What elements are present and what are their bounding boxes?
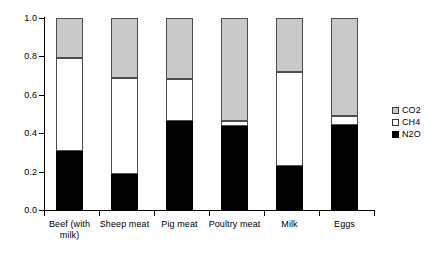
plot-area xyxy=(44,16,374,212)
category-label-line: Eggs xyxy=(308,219,382,230)
bar-segment-co2 xyxy=(276,18,303,72)
legend-item-label: N2O xyxy=(402,130,421,139)
bar-segment-ch4 xyxy=(56,58,83,151)
bar-segment-n2o xyxy=(166,121,193,210)
legend-item-ch4[interactable]: CH4 xyxy=(392,116,421,128)
bar-segment-n2o xyxy=(111,174,138,210)
legend-item-label: CO2 xyxy=(402,106,421,115)
bar-beef-with-milk xyxy=(56,18,83,210)
bar-eggs xyxy=(331,18,358,210)
bar-segment-ch4 xyxy=(166,79,193,120)
bar-segment-ch4 xyxy=(276,72,303,166)
x-tick-mark xyxy=(374,211,375,216)
bar-segment-n2o xyxy=(56,151,83,210)
legend-item-n2o[interactable]: N2O xyxy=(392,128,421,140)
legend-item-label: CH4 xyxy=(402,118,420,127)
bar-segment-co2 xyxy=(331,18,358,116)
bar-segment-n2o xyxy=(221,126,248,210)
y-tick-label: 1.0 xyxy=(3,14,37,23)
bar-poultry-meat xyxy=(221,18,248,210)
bar-segment-co2 xyxy=(166,18,193,79)
bar-pig-meat xyxy=(166,18,193,210)
ch4-swatch xyxy=(392,119,399,126)
bar-segment-ch4 xyxy=(331,116,358,125)
bar-milk xyxy=(276,18,303,210)
bar-segment-ch4 xyxy=(111,78,138,174)
bar-segment-n2o xyxy=(331,125,358,210)
y-tick-label: 0.8 xyxy=(3,52,37,61)
y-tick-label: 0.4 xyxy=(3,129,37,138)
bar-segment-co2 xyxy=(56,18,83,58)
legend-item-co2[interactable]: CO2 xyxy=(392,104,421,116)
y-tick-label: 0.0 xyxy=(3,206,37,215)
stacked-bar-chart: 0.00.20.40.60.81.0 Beef (withmilk)Sheep … xyxy=(0,0,443,256)
co2-swatch xyxy=(392,107,399,114)
category-label-line: milk) xyxy=(33,230,107,241)
y-tick-label: 0.6 xyxy=(3,91,37,100)
category-label: Eggs xyxy=(308,219,382,230)
n2o-swatch xyxy=(392,131,399,138)
bar-segment-ch4 xyxy=(221,121,248,127)
chart-legend: CO2CH4N2O xyxy=(392,104,421,140)
bar-sheep-meat xyxy=(111,18,138,210)
bar-segment-co2 xyxy=(111,18,138,78)
y-tick-label: 0.2 xyxy=(3,168,37,177)
bar-segment-n2o xyxy=(276,166,303,210)
bar-segment-co2 xyxy=(221,18,248,121)
